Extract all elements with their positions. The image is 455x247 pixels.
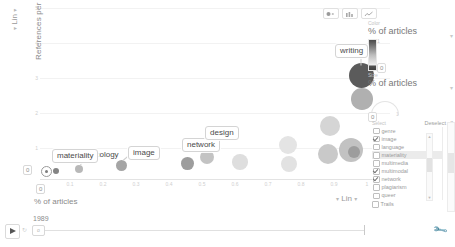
checkbox-plagiarism[interactable]: [373, 184, 380, 191]
loop-icon[interactable]: ↻: [22, 226, 27, 233]
color-legend-max: 1: [377, 38, 380, 44]
x-axis-line: [40, 179, 390, 180]
x-tick: 0.6: [227, 181, 243, 187]
y-tick: 3: [28, 75, 38, 81]
x-tick: 0.5: [194, 181, 210, 187]
trails-toggle[interactable]: Trails: [372, 201, 394, 208]
checkbox-materiality[interactable]: [373, 152, 380, 159]
size-legend-max: 1: [396, 111, 399, 117]
x-tick: 0.2: [95, 181, 111, 187]
timeline-track[interactable]: [45, 230, 365, 231]
size-legend[interactable]: Size % of articles ▾ 0 1: [368, 72, 453, 120]
bubble-unlabelled[interactable]: [281, 156, 297, 172]
scrollbar-thumb[interactable]: [427, 158, 432, 172]
select-item-label: network: [382, 176, 401, 183]
y-axis-label: References per 1000 words: [34, 0, 43, 60]
scroll-up-arrow-icon[interactable]: ▲: [427, 134, 432, 139]
select-item-label: genre: [382, 128, 396, 135]
timeline-end-marker: [364, 225, 365, 235]
checkbox-genre[interactable]: [373, 128, 380, 135]
scrollbar-thumb[interactable]: [448, 153, 454, 173]
select-list[interactable]: genre image language materiality multime…: [372, 127, 443, 200]
bubble-unlabelled[interactable]: [348, 146, 360, 158]
size-indicator-label[interactable]: % of articles: [368, 78, 453, 89]
x-tick: 0.3: [128, 181, 144, 187]
checkbox-multimodal[interactable]: [373, 168, 380, 175]
checkbox-network[interactable]: [373, 176, 380, 183]
chevron-down-icon: ▾: [12, 9, 18, 12]
y-tick: 2: [28, 110, 38, 116]
chevron-down-icon: ▾: [354, 196, 357, 202]
select-item-label: multimedia: [382, 160, 409, 167]
timeline-handle[interactable]: o: [32, 225, 45, 236]
bubble-unlabelled[interactable]: [232, 154, 248, 170]
x-tick: 0.8: [293, 181, 309, 187]
y-tick: 1: [28, 145, 38, 151]
wrench-icon[interactable]: 🔧: [432, 222, 448, 238]
checkbox-queer[interactable]: [373, 193, 380, 200]
y-scale-label: Lin: [10, 14, 19, 25]
x-tick: 0.4: [161, 181, 177, 187]
trails-label: Trails: [381, 201, 394, 207]
scroll-down-arrow-icon[interactable]: ▼: [427, 195, 432, 200]
select-item-label: plagiarism: [382, 184, 407, 191]
panel-scrollbar[interactable]: [447, 122, 455, 212]
plot-area[interactable]: 5 4 3 2 1 0.1 0.2 0.3 0.4 0.5 0.6 0.7 0.…: [40, 8, 390, 186]
timeline-bar[interactable]: ↻ 1989 o 🔧: [0, 218, 455, 247]
x-tick: 0.7: [260, 181, 276, 187]
caret-left-icon: ▾: [12, 27, 18, 30]
checkbox-image[interactable]: [373, 136, 380, 143]
origin-marker: [41, 166, 52, 177]
gridline-h: [40, 113, 390, 114]
color-gradient-bar[interactable]: [368, 39, 377, 71]
bubble-unlabelled[interactable]: [279, 136, 297, 154]
x-tick: 0.9: [326, 181, 342, 187]
chevron-down-icon[interactable]: ▾: [450, 84, 453, 91]
bubble-label-writing[interactable]: writing: [335, 44, 368, 58]
gridline-h: [40, 78, 390, 79]
select-item-label: materiality: [382, 152, 407, 159]
y-axis-zero-box[interactable]: 0: [23, 165, 32, 175]
bubble-network[interactable]: [181, 157, 194, 170]
bubble-label-materiality[interactable]: materiality: [52, 149, 98, 163]
bubble-label-network[interactable]: network: [182, 138, 220, 152]
bubble-label-design[interactable]: design: [205, 126, 239, 140]
color-indicator-label[interactable]: % of articles: [368, 26, 453, 37]
bubble-unlabelled[interactable]: [320, 116, 340, 136]
chevron-down-icon[interactable]: ▾: [450, 32, 453, 39]
select-panel[interactable]: Select Deselect all genre image language…: [372, 120, 455, 200]
checkbox-trails[interactable]: [372, 201, 379, 208]
x-axis-label: % of articles: [34, 197, 78, 206]
x-scale-selector[interactable]: ▾ Lin ▾: [336, 194, 357, 203]
caret-left-icon: ▾: [336, 196, 339, 202]
select-item-label: queer: [382, 192, 396, 199]
select-item-label: multimodal: [382, 168, 409, 175]
select-item-label: language: [382, 144, 405, 151]
select-item-label: image: [382, 136, 397, 143]
line-chart-icon[interactable]: [361, 8, 377, 19]
bubble-chart-icon[interactable]: [323, 8, 339, 19]
chart-type-toolbar[interactable]: [323, 8, 377, 19]
bar-chart-icon[interactable]: [342, 8, 358, 19]
bubble-ecology[interactable]: [75, 165, 83, 173]
color-legend[interactable]: Color % of articles ▾ 1 0: [368, 20, 453, 71]
timeline-year-label: 1989: [33, 215, 49, 222]
bubble-label-image[interactable]: image: [128, 146, 160, 160]
x-tick: 0.1: [62, 181, 78, 187]
y-scale-selector[interactable]: ▾ Lin ▾: [10, 9, 19, 30]
checkbox-language[interactable]: [373, 144, 380, 151]
select-list-scrollbar[interactable]: ▲ ▼: [426, 133, 433, 201]
bubble-materiality[interactable]: [53, 168, 59, 174]
play-button[interactable]: [5, 224, 20, 239]
checkbox-multimedia[interactable]: [373, 160, 380, 167]
x-scale-label: Lin: [341, 194, 352, 203]
bubble-design[interactable]: [200, 150, 214, 164]
x-axis-zero-box[interactable]: 0: [36, 184, 45, 194]
bubble-chart-app: 5 4 3 2 1 0.1 0.2 0.3 0.4 0.5 0.6 0.7 0.…: [0, 0, 455, 247]
bubble-unlabelled[interactable]: [318, 144, 338, 164]
